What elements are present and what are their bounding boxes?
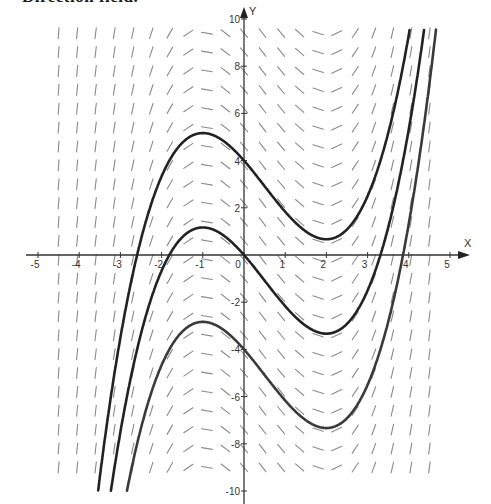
slope-segment bbox=[410, 179, 412, 190]
slope-segment bbox=[278, 425, 285, 434]
slope-segment bbox=[332, 465, 342, 470]
slope-segment bbox=[132, 349, 134, 360]
x-axis-arrow-icon bbox=[458, 251, 470, 259]
slope-segment bbox=[429, 254, 430, 265]
slope-segment bbox=[150, 47, 153, 58]
slope-segment bbox=[313, 183, 324, 186]
y-tick-label: 8 bbox=[234, 61, 240, 72]
slope-segment bbox=[167, 293, 173, 303]
x-tick-label: 3 bbox=[362, 259, 368, 270]
slope-segment bbox=[58, 386, 59, 397]
slope-segment bbox=[278, 29, 285, 38]
slope-segment bbox=[58, 217, 59, 228]
slope-segment bbox=[410, 424, 412, 435]
slope-segment bbox=[296, 294, 304, 301]
slope-segment bbox=[77, 349, 78, 360]
slope-segment bbox=[150, 160, 153, 170]
slope-segment bbox=[95, 66, 96, 77]
slope-segment bbox=[429, 179, 430, 190]
slope-segment bbox=[132, 66, 134, 77]
slope-segment bbox=[132, 292, 134, 303]
slope-segment bbox=[95, 235, 96, 246]
x-tick-label: -3 bbox=[113, 259, 122, 270]
slope-segment bbox=[167, 28, 173, 38]
slope-segment bbox=[259, 425, 266, 434]
slope-segment bbox=[410, 160, 412, 171]
slope-segment bbox=[150, 273, 153, 283]
slope-segment bbox=[167, 425, 173, 435]
slope-segment bbox=[95, 462, 96, 473]
slope-segment bbox=[58, 273, 59, 284]
slope-segment bbox=[202, 146, 213, 148]
slope-segment bbox=[313, 220, 324, 223]
slope-segment bbox=[150, 141, 153, 152]
slope-segment bbox=[372, 330, 376, 340]
slope-segment bbox=[278, 444, 285, 452]
slope-segment bbox=[113, 84, 115, 95]
slope-segment bbox=[132, 47, 134, 58]
slope-segment bbox=[167, 387, 173, 397]
slope-segment bbox=[221, 49, 230, 56]
x-tick-label: 1 bbox=[279, 259, 285, 270]
slope-segment bbox=[221, 86, 230, 93]
slope-segment bbox=[259, 199, 266, 208]
slope-segment bbox=[95, 84, 96, 95]
slope-segment bbox=[410, 254, 412, 265]
slope-segment bbox=[352, 123, 358, 132]
slope-segment bbox=[352, 104, 358, 113]
slope-segment bbox=[391, 462, 394, 473]
slope-segment bbox=[202, 108, 213, 110]
slope-segment bbox=[132, 236, 134, 247]
slope-segment bbox=[58, 160, 59, 171]
slope-segment bbox=[313, 352, 324, 355]
slope-segment bbox=[296, 162, 304, 169]
slope-segment bbox=[391, 254, 394, 265]
slope-segment bbox=[184, 294, 193, 300]
slope-segment bbox=[184, 87, 193, 93]
slope-segment bbox=[184, 238, 193, 244]
slope-segment bbox=[313, 164, 324, 167]
slope-segment bbox=[221, 275, 230, 282]
slope-segment bbox=[313, 32, 324, 35]
slope-segment bbox=[332, 257, 342, 262]
slope-segment bbox=[113, 443, 115, 454]
slope-segment bbox=[95, 141, 96, 152]
slope-segment bbox=[95, 179, 96, 190]
slope-segment bbox=[410, 405, 412, 416]
slope-segment bbox=[184, 68, 193, 74]
slope-segment bbox=[202, 240, 213, 242]
slope-segment bbox=[132, 311, 134, 322]
slope-segment bbox=[167, 47, 173, 57]
slope-segment bbox=[95, 405, 96, 416]
slope-segment bbox=[259, 350, 266, 359]
slope-segment bbox=[296, 369, 304, 376]
slope-segment bbox=[150, 424, 153, 435]
slope-segment bbox=[184, 464, 193, 470]
slope-segment bbox=[313, 145, 324, 148]
slope-segment bbox=[313, 466, 324, 469]
y-tick-label: 4 bbox=[234, 156, 240, 167]
slope-segment bbox=[372, 141, 376, 151]
slope-segment bbox=[221, 200, 230, 207]
slope-segment bbox=[113, 273, 115, 284]
slope-segment bbox=[202, 391, 213, 393]
slope-segment bbox=[113, 198, 115, 209]
slope-segment bbox=[429, 273, 430, 284]
slope-segment bbox=[95, 386, 96, 397]
y-tick-label: -4 bbox=[231, 344, 240, 355]
slope-segment bbox=[113, 405, 115, 416]
slope-segment bbox=[429, 292, 430, 303]
slope-segment bbox=[221, 68, 230, 75]
slope-segment bbox=[410, 66, 412, 77]
slope-segment bbox=[352, 350, 358, 359]
slope-segment bbox=[352, 463, 358, 472]
slope-segment bbox=[58, 179, 59, 190]
slope-segment bbox=[391, 236, 394, 247]
slope-segment bbox=[77, 235, 78, 246]
slope-segment bbox=[202, 183, 213, 185]
slope-segment bbox=[352, 368, 358, 377]
slope-segment bbox=[391, 141, 394, 152]
slope-segment bbox=[278, 67, 285, 75]
slope-segment bbox=[132, 179, 134, 190]
slope-segment bbox=[202, 202, 213, 204]
